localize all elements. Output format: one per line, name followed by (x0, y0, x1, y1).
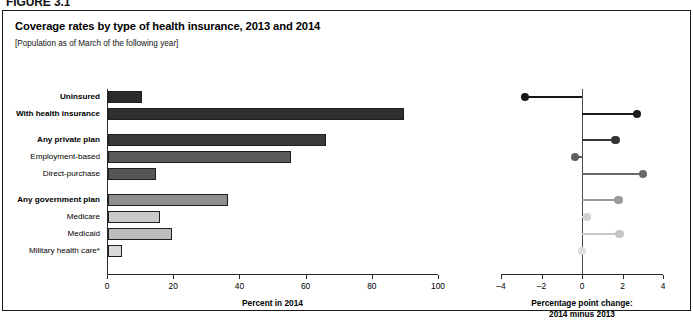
change-dot (611, 136, 619, 144)
bar (108, 194, 229, 206)
bar (108, 108, 405, 120)
dot-stem (582, 173, 643, 175)
change-dot (578, 247, 586, 255)
left-chart-x-tick (107, 275, 108, 279)
right-chart-x-tick-label: –4 (486, 281, 516, 291)
left-chart-x-tick (239, 275, 240, 279)
change-dot (583, 213, 591, 221)
left-chart-x-tick-label: 40 (224, 281, 254, 291)
right-chart-x-tick-label: 4 (648, 281, 678, 291)
bar (108, 134, 326, 146)
category-label: Any private plan (37, 135, 100, 145)
left-chart-x-tick (306, 275, 307, 279)
category-label: Uninsured (60, 92, 100, 102)
figure-label: FIGURE 3.1 (6, 0, 70, 9)
category-label: Medicaid (68, 229, 100, 239)
bar (108, 245, 123, 257)
left-chart-x-tick-label: 20 (158, 281, 188, 291)
bar (108, 151, 291, 163)
left-chart-x-tick-label: 100 (423, 281, 453, 291)
dot-stem (582, 113, 637, 115)
left-chart-x-tick-label: 60 (291, 281, 321, 291)
left-chart-x-tick-label: 0 (92, 281, 122, 291)
dot-stem (525, 96, 582, 98)
left-chart-axis-title: Percent in 2014 (107, 298, 438, 309)
percent-2014-bar-chart: 020406080100Percent in 2014 (107, 89, 438, 274)
category-label: Any government plan (17, 195, 100, 205)
left-chart-x-tick-label: 80 (357, 281, 387, 291)
bar (108, 211, 161, 223)
bar (108, 228, 173, 240)
change-dot (571, 153, 579, 161)
category-label: Military health care* (29, 246, 100, 256)
category-label: Direct-purchase (43, 169, 100, 179)
left-chart-x-tick (173, 275, 174, 279)
change-dot (615, 230, 623, 238)
category-label: Medicare (67, 212, 100, 222)
left-chart-x-tick (372, 275, 373, 279)
right-chart-x-tick-label: 0 (567, 281, 597, 291)
category-label: Employment-based (30, 152, 100, 162)
right-chart-x-tick-label: –2 (527, 281, 557, 291)
category-label: With health insurance (16, 109, 100, 119)
chart-title: Coverage rates by type of health insuran… (15, 20, 320, 32)
chart-subtitle: [Population as of March of the following… (15, 39, 178, 48)
right-chart-x-tick-label: 2 (608, 281, 638, 291)
category-axis-labels: UninsuredWith health insuranceAny privat… (3, 89, 104, 274)
bar (108, 91, 142, 103)
right-chart-x-tick (623, 275, 624, 279)
figure-panel: Coverage rates by type of health insuran… (2, 10, 691, 311)
right-chart-x-tick (542, 275, 543, 279)
bar (108, 168, 156, 180)
right-chart-axis-title: Percentage point change: (501, 298, 663, 309)
right-chart-axis-title-line2: 2014 minus 2013 (501, 309, 663, 320)
right-chart-x-tick (582, 275, 583, 279)
change-dot (521, 93, 529, 101)
change-dot (639, 170, 647, 178)
left-chart-x-axis-line (107, 274, 438, 275)
dot-stem (582, 199, 618, 201)
dot-stem (582, 233, 619, 235)
left-chart-x-tick (438, 275, 439, 279)
change-dot (633, 110, 641, 118)
change-dot (614, 196, 622, 204)
percentage-point-change-dot-chart: –4–2024Percentage point change:2014 minu… (501, 89, 663, 274)
right-chart-x-tick (501, 275, 502, 279)
right-chart-x-tick (663, 275, 664, 279)
